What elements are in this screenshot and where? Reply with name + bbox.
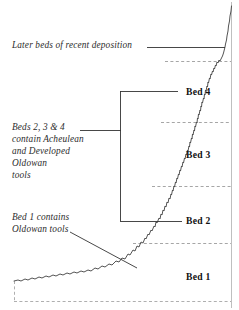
bed-label-bed-4: Bed 4 <box>186 86 210 97</box>
annotation-beds-2-3-4: Beds 2, 3 & 4 contain Acheulean and Deve… <box>12 121 84 181</box>
stratigraphic-diagram: Later beds of recent deposition Beds 2, … <box>0 0 239 310</box>
bed-label-bed-1: Bed 1 <box>186 271 210 282</box>
leader-bed1-note <box>70 232 137 268</box>
bed-label-bed-3: Bed 3 <box>186 149 210 160</box>
bed-label-bed-2: Bed 2 <box>186 215 210 226</box>
annotation-bed-1-note: Bed 1 contains Oldowan tools <box>12 211 69 235</box>
annotation-later-beds: Later beds of recent deposition <box>12 39 132 51</box>
